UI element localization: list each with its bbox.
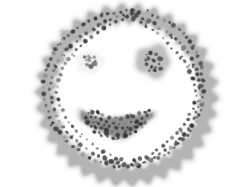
plate-image: Smiley face bacterial colony plate xyxy=(0,0,252,187)
artwork-canvas xyxy=(0,0,252,187)
smiley-colony-svg xyxy=(0,0,252,187)
